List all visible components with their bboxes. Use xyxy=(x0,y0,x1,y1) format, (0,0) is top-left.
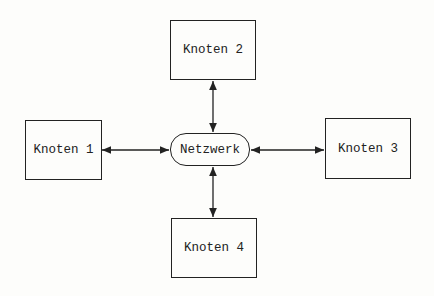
node-4-label: Knoten 4 xyxy=(184,241,244,255)
node-3-label: Knoten 3 xyxy=(338,142,398,156)
node-2-label: Knoten 2 xyxy=(183,43,243,57)
node-3-box: Knoten 3 xyxy=(325,118,411,179)
network-node: Netzwerk xyxy=(170,133,250,166)
node-4-box: Knoten 4 xyxy=(171,218,257,278)
node-2-box: Knoten 2 xyxy=(170,20,256,80)
network-label: Netzwerk xyxy=(180,143,240,157)
node-1-box: Knoten 1 xyxy=(25,120,102,180)
node-1-label: Knoten 1 xyxy=(33,143,93,157)
